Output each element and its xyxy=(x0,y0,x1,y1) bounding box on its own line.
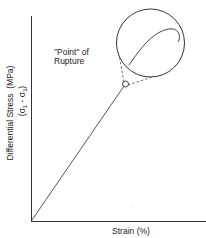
stress-strain-diagram: "Point" of Rupture Strain (%) Differenti… xyxy=(0,0,206,238)
stress-strain-line xyxy=(32,86,124,220)
formula-suffix: ) xyxy=(17,86,27,89)
y-axis-formula-group: (σ1 - σ3) xyxy=(17,86,28,117)
y-axis-formula: (σ1 - σ3) xyxy=(17,86,28,117)
annotation-line2: Rupture xyxy=(54,56,85,66)
magnified-inset-circle xyxy=(117,9,185,77)
rupture-point-marker xyxy=(123,81,129,87)
y-axis-label-group: Differential Stress (MPa) xyxy=(5,65,15,160)
diagram-svg: "Point" of Rupture Strain (%) Differenti… xyxy=(0,0,206,238)
y-axis-label: Differential Stress (MPa) xyxy=(5,65,15,160)
x-axis-label: Strain (%) xyxy=(112,226,150,236)
formula-mid: - σ xyxy=(17,91,27,105)
speck xyxy=(132,205,133,206)
